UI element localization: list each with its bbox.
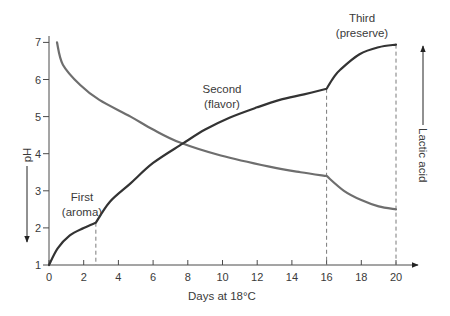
x-axis-title: Days at 18°C bbox=[188, 290, 256, 302]
x-tick-label: 18 bbox=[355, 271, 367, 283]
lactic-acid-indicator: Lactic acid bbox=[417, 46, 429, 182]
plot-area bbox=[49, 42, 396, 265]
phase-boundary-lines bbox=[96, 45, 396, 265]
x-tick-label: 14 bbox=[286, 271, 298, 283]
x-tick-label: 6 bbox=[150, 271, 156, 283]
y-tick-label: 6 bbox=[35, 74, 41, 86]
y-tick-label: 3 bbox=[35, 185, 41, 197]
third-phase-label: Third bbox=[349, 12, 375, 24]
x-tick-label: 8 bbox=[185, 271, 191, 283]
second-phase-label: Second bbox=[202, 83, 241, 95]
x-tick-label: 20 bbox=[390, 271, 402, 283]
x-tick-label: 2 bbox=[81, 271, 87, 283]
y-tick-label: 2 bbox=[35, 222, 41, 234]
y-tick-label: 1 bbox=[35, 259, 41, 271]
chart-canvas: 02468101214161820 1234567 First (aroma) … bbox=[0, 0, 450, 316]
x-tick-label: 16 bbox=[320, 271, 332, 283]
x-tick-label: 12 bbox=[251, 271, 263, 283]
y-tick-label: 7 bbox=[35, 36, 41, 48]
ph-axis-indicator: pH bbox=[21, 148, 33, 242]
first-phase-label: First bbox=[71, 191, 94, 203]
x-tick-label: 10 bbox=[216, 271, 228, 283]
y-ticks: 1234567 bbox=[35, 36, 49, 271]
lactic-acid-curve bbox=[49, 45, 396, 265]
ph-curve bbox=[57, 42, 396, 209]
third-phase-sublabel: (preserve) bbox=[336, 27, 389, 39]
x-ticks: 02468101214161820 bbox=[46, 260, 402, 283]
axes: 02468101214161820 1234567 bbox=[35, 36, 418, 283]
first-phase-sublabel: (aroma) bbox=[62, 206, 102, 218]
x-tick-label: 4 bbox=[115, 271, 121, 283]
y-axis-title: pH bbox=[21, 148, 33, 163]
secondary-axis-title: Lactic acid bbox=[417, 128, 429, 182]
y-tick-label: 4 bbox=[35, 148, 41, 160]
x-tick-label: 0 bbox=[46, 271, 52, 283]
fermentation-chart: 02468101214161820 1234567 First (aroma) … bbox=[0, 0, 450, 316]
second-phase-sublabel: (flavor) bbox=[204, 98, 240, 110]
y-tick-label: 5 bbox=[35, 111, 41, 123]
